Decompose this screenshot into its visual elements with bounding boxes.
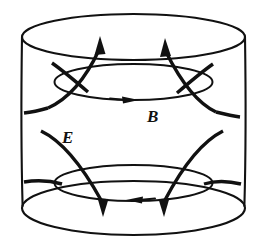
cylinder-bottom-rim-ellipse bbox=[22, 181, 245, 235]
e-line-upper-right-tail bbox=[216, 112, 240, 117]
electric-field-label: E bbox=[61, 128, 73, 147]
upper-b-loop-arrow-tail bbox=[110, 99, 126, 100]
e-line-lower-left-cross bbox=[24, 181, 62, 184]
e-arrow-lower-left-head-icon bbox=[98, 198, 109, 217]
e-arrow-upper-right-head-icon bbox=[160, 38, 171, 57]
lower-b-loop-arrow-tail bbox=[139, 199, 155, 200]
cylinder-top-rim-ellipse bbox=[22, 14, 245, 60]
figure-canvas: B E bbox=[0, 0, 265, 252]
e-arrow-upper-left-head-icon bbox=[95, 36, 106, 55]
lower-b-loop-ellipse bbox=[55, 165, 213, 201]
cylinder-left-wall bbox=[21, 37, 22, 206]
cylinder-right-wall bbox=[244, 37, 245, 206]
e-line-upper-left-tail bbox=[24, 108, 48, 113]
e-arrow-lower-right-head-icon bbox=[159, 198, 170, 217]
em-field-cylinder-figure: B E bbox=[0, 0, 265, 252]
magnetic-field-label: B bbox=[146, 107, 158, 126]
lower-electric-field-lines bbox=[24, 131, 241, 217]
e-line-lower-right-cross bbox=[204, 181, 241, 184]
